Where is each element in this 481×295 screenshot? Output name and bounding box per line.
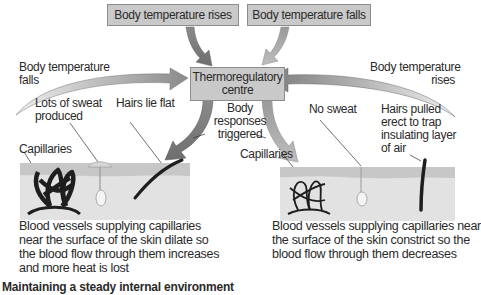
- skin-section-dilated: [20, 160, 190, 220]
- responses-line3: triggered: [210, 128, 270, 141]
- box-rises-label: Body temperature rises: [114, 8, 231, 22]
- box-falls-label: Body temperature falls: [252, 8, 365, 22]
- right-sweat-label: No sweat: [309, 103, 357, 116]
- left-desc-line1: Blood vessels supplying capillaries: [19, 219, 219, 233]
- sweat-droplet: [88, 162, 112, 167]
- left-hairs-label: Hairs lie flat: [116, 97, 174, 110]
- right-trigger-line2: rises: [370, 74, 455, 87]
- centre-line2: centre: [191, 84, 284, 97]
- right-capillaries-label: Capillaries: [240, 148, 293, 161]
- right-hairs-label: Hairs pulled erect to trap insulating la…: [381, 103, 456, 155]
- left-trigger-label: Body temperature falls: [19, 61, 110, 87]
- right-desc-line2: the surface of the skin constrict so the: [272, 233, 481, 247]
- right-desc-line1: Blood vessels supplying capillaries near: [272, 219, 481, 233]
- sweat-gland: [96, 190, 106, 206]
- left-sweat-label: Lots of sweat produced: [35, 97, 102, 123]
- sweat-gland-right: [357, 192, 367, 206]
- left-trigger-line2: falls: [19, 74, 110, 87]
- left-description: Blood vessels supplying capillaries near…: [19, 219, 219, 275]
- skin-section-constricted: [280, 160, 455, 221]
- left-sweat-line2: produced: [35, 110, 102, 123]
- thermoregulatory-centre-box: Thermoregulatory centre: [190, 67, 285, 101]
- arrow-falls-to-centre: [262, 27, 289, 65]
- right-desc-line3: blood flow through them decreases: [272, 247, 481, 261]
- left-desc-line4: and more heat is lost: [19, 261, 219, 275]
- box-body-temperature-rises: Body temperature rises: [107, 4, 239, 26]
- right-trigger-label: Body temperature rises: [370, 61, 455, 87]
- responses-label: Body responses triggered: [210, 102, 270, 141]
- box-body-temperature-falls: Body temperature falls: [247, 4, 371, 26]
- right-hairs-line4: of air: [381, 142, 456, 155]
- left-desc-line2: near the surface of the skin dilate so: [19, 233, 219, 247]
- figure-caption: Maintaining a steady internal environmen…: [2, 280, 234, 294]
- left-capillaries-label: Capillaries: [19, 143, 72, 156]
- left-desc-line3: the blood flow through them increases: [19, 247, 219, 261]
- arrow-rises-to-centre: [186, 27, 212, 66]
- right-description: Blood vessels supplying capillaries near…: [272, 219, 481, 261]
